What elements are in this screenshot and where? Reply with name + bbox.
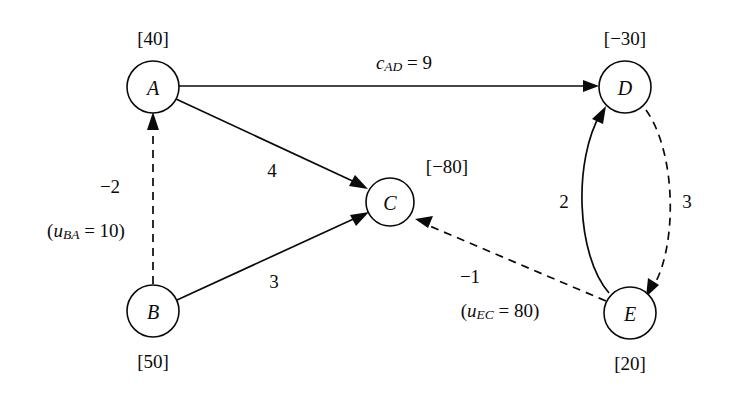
edge-A-C-arrowhead bbox=[349, 175, 368, 189]
edge-E-C bbox=[415, 216, 606, 301]
edge-E-C-line bbox=[425, 224, 606, 301]
node-C-label: C bbox=[383, 192, 397, 214]
edge-B-A-label: −2 bbox=[100, 176, 120, 197]
edge-B-A-cap-rest: = 10) bbox=[79, 220, 125, 242]
diagram-canvas: A [40] B [50] C [−80] D [−30] E [20] cAD… bbox=[0, 0, 730, 401]
edge-B-A-cap-var: u bbox=[53, 220, 63, 241]
edge-E-C-cap-sub: EC bbox=[476, 307, 495, 322]
node-E-supply: [20] bbox=[614, 353, 646, 374]
edge-A-D-label: cAD = 9 bbox=[376, 52, 432, 74]
edge-E-C-arrowhead bbox=[415, 216, 433, 228]
node-A[interactable]: A bbox=[127, 61, 179, 113]
edge-B-A-capacity-label: (uBA = 10) bbox=[47, 220, 125, 242]
node-E-label: E bbox=[623, 303, 636, 325]
edge-E-C-label: −1 bbox=[460, 266, 480, 287]
network-flow-diagram: A [40] B [50] C [−80] D [−30] E [20] cAD… bbox=[0, 0, 730, 401]
node-B-supply: [50] bbox=[137, 351, 169, 372]
node-B-label: B bbox=[147, 301, 159, 323]
node-D[interactable]: D bbox=[599, 61, 651, 113]
edge-A-D bbox=[179, 80, 599, 92]
node-D-label: D bbox=[617, 77, 633, 99]
edge-E-D-label: 2 bbox=[559, 191, 569, 212]
edge-A-D-arrowhead bbox=[583, 80, 599, 92]
edge-B-A bbox=[147, 112, 159, 284]
edge-E-D-curve bbox=[582, 113, 609, 293]
edge-E-C-cap-var: u bbox=[467, 300, 477, 321]
edge-A-D-label-sub: AD bbox=[383, 59, 402, 74]
edge-A-C-label: 4 bbox=[267, 160, 277, 181]
edge-E-D-arrowhead bbox=[592, 106, 606, 124]
edge-B-C-arrowhead bbox=[350, 212, 369, 226]
node-A-label: A bbox=[145, 77, 160, 99]
node-C-supply: [−80] bbox=[426, 156, 468, 177]
node-E[interactable]: E bbox=[604, 287, 656, 339]
node-A-supply: [40] bbox=[137, 28, 169, 49]
edge-B-A-arrowhead bbox=[147, 112, 159, 130]
edge-D-E-label: 3 bbox=[682, 191, 692, 212]
node-C[interactable]: C bbox=[366, 178, 414, 226]
edge-E-D bbox=[582, 106, 609, 293]
node-B[interactable]: B bbox=[127, 285, 179, 337]
node-D-supply: [−30] bbox=[604, 28, 646, 49]
edge-D-E-curve bbox=[646, 110, 670, 290]
edge-D-E bbox=[646, 110, 670, 297]
edge-A-D-label-rest: = 9 bbox=[402, 52, 432, 73]
edge-E-C-capacity-label: (uEC = 80) bbox=[461, 300, 540, 322]
edge-B-C-label: 3 bbox=[269, 271, 279, 292]
edge-E-C-cap-rest: = 80) bbox=[494, 300, 540, 322]
edge-B-A-cap-sub: BA bbox=[63, 227, 80, 242]
